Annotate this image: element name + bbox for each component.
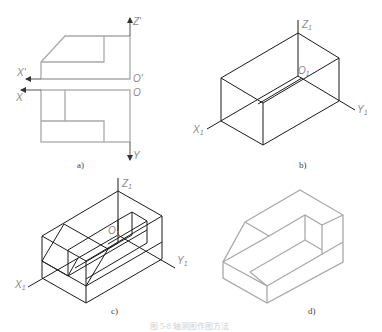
label-o: O (133, 87, 141, 98)
label-x-prime: X' (16, 67, 27, 78)
panel-label-b: b) (299, 160, 307, 170)
front-view (41, 36, 130, 79)
label-y: Y (133, 150, 141, 161)
panel-c-construction: Z1 O1 X1 Y1 c) (14, 178, 188, 316)
panel-label-a: a) (77, 160, 84, 170)
label-o1: O1 (298, 65, 310, 77)
panel-label-d: d) (308, 306, 316, 316)
y1-axis (298, 76, 355, 110)
label-z1: Z1 (301, 19, 312, 31)
panel-d-finished: d) (223, 190, 343, 316)
panel-b-bounding-box: Z1 O1 X1 Y1 b) (192, 19, 368, 170)
label-o-prime: O' (133, 73, 144, 84)
isometric-construction-figure: Z' X' O' X O Y a) Z1 O1 X1 Y1 b) (0, 0, 382, 332)
panel-a-orthographic: Z' X' O' X O Y a) (15, 16, 144, 170)
label-z1-c: Z1 (121, 178, 132, 190)
label-x1: X1 (192, 124, 204, 136)
label-z-prime: Z' (132, 16, 142, 27)
label-y1-c: Y1 (177, 255, 188, 267)
top-view (41, 90, 130, 142)
label-x: X (15, 92, 23, 103)
panel-label-c: c) (111, 306, 118, 316)
label-y1: Y1 (357, 104, 368, 116)
figure-caption: 图 5-8 轴测图作图方法 (150, 321, 229, 331)
label-x1-c: X1 (14, 279, 26, 291)
